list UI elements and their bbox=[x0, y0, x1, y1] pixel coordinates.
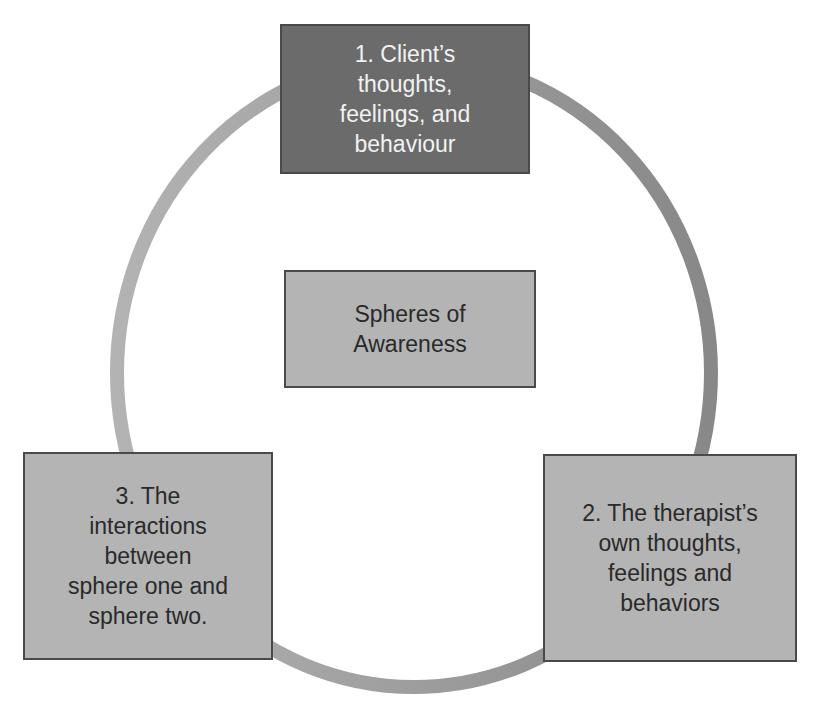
sphere-3-interactions-box: 3. The interactions between sphere one a… bbox=[23, 452, 273, 660]
center-spheres-of-awareness-box: Spheres of Awareness bbox=[284, 270, 536, 388]
sphere-1-label: 1. Client’s thoughts, feelings, and beha… bbox=[340, 39, 470, 159]
sphere-2-label: 2. The therapist’s own thoughts, feeling… bbox=[582, 498, 758, 618]
center-label: Spheres of Awareness bbox=[330, 299, 490, 359]
sphere-1-client-box: 1. Client’s thoughts, feelings, and beha… bbox=[280, 24, 530, 174]
sphere-3-label: 3. The interactions between sphere one a… bbox=[68, 481, 228, 631]
sphere-2-therapist-box: 2. The therapist’s own thoughts, feeling… bbox=[543, 454, 797, 662]
